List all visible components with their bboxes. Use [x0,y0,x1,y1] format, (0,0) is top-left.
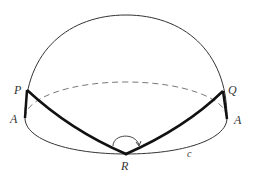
geodesic-RQ [126,91,223,154]
segment-PA [25,90,27,118]
geodesic-PR [27,90,126,154]
point-R [125,153,128,156]
label-R: R [120,159,129,173]
label-A-left: A [9,112,18,126]
hemisphere-outline [25,15,227,118]
hemisphere-diagram: P Q A A R c [0,0,253,182]
label-A-right: A [233,113,242,127]
angle-arc [113,136,139,146]
label-Q: Q [228,83,237,97]
label-c: c [187,148,192,159]
label-P: P [13,83,22,97]
